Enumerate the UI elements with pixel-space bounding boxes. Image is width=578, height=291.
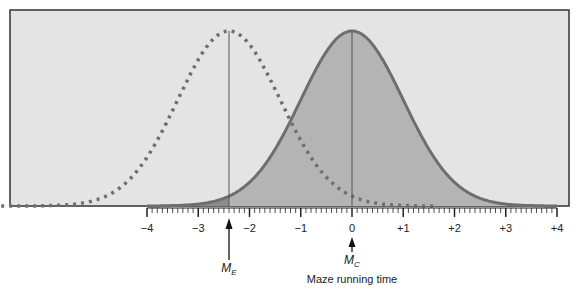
x-tick-label: −2	[243, 222, 256, 234]
x-tick-label: +3	[499, 222, 512, 234]
mc-label: MC	[344, 253, 360, 269]
x-tick-label: −1	[294, 222, 307, 234]
x-axis	[147, 208, 557, 217]
x-tick-label: −3	[192, 222, 205, 234]
x-axis-label: Maze running time	[307, 273, 398, 285]
x-tick-label: +2	[448, 222, 461, 234]
me-arrowhead-icon	[226, 218, 233, 229]
x-tick-label: 0	[349, 222, 355, 234]
me-arrow-annotation: ME	[221, 218, 237, 277]
mc-arrowhead-icon	[349, 237, 356, 247]
me-label: ME	[221, 261, 237, 277]
x-tick-label: +1	[397, 222, 410, 234]
x-tick-label: +4	[551, 222, 564, 234]
x-tick-labels: −4−3−2−10+1+2+3+4	[141, 222, 564, 234]
mc-arrow-annotation: MC	[344, 237, 360, 269]
normal-distributions-chart: −4−3−2−10+1+2+3+4 ME MC Maze running tim…	[0, 0, 578, 291]
x-tick-label: −4	[141, 222, 154, 234]
